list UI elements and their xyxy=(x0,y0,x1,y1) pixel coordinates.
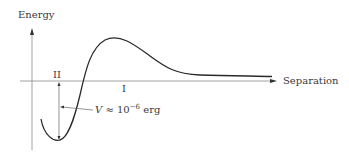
region-one-label: I xyxy=(122,84,126,94)
energy-diagram: Energy Separation II I V ≈ 10−6 erg xyxy=(0,0,349,154)
region-two-label: II xyxy=(53,70,61,80)
potential-symbol: V xyxy=(95,104,102,115)
relation-text: ≈ 10 xyxy=(105,104,129,115)
well-depth-annotation: V ≈ 10−6 erg xyxy=(95,104,160,115)
potential-curve xyxy=(41,38,272,140)
x-axis-label: Separation xyxy=(283,76,339,86)
x-axis-arrow-icon xyxy=(270,79,277,83)
y-axis-label: Energy xyxy=(18,10,55,20)
leader-arrow-icon xyxy=(60,106,64,109)
leader-line xyxy=(62,107,93,110)
y-axis-arrow-icon xyxy=(30,28,34,35)
exponent-text: −6 xyxy=(130,103,140,111)
unit-text: erg xyxy=(143,104,160,115)
depth-arrow-up-icon xyxy=(58,82,61,86)
